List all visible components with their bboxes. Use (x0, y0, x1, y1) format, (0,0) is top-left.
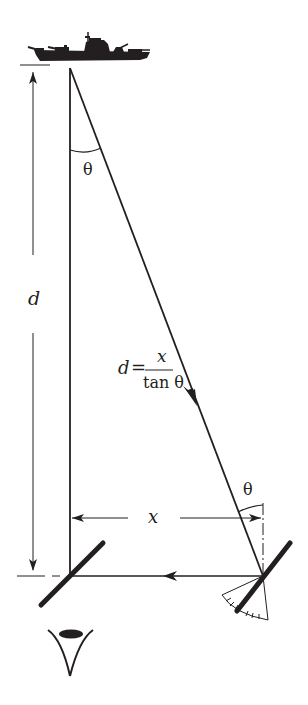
angle-label-top: θ (83, 160, 93, 179)
angle-arc-bottom (238, 505, 263, 512)
baseline-dimension (72, 514, 261, 522)
formula-numerator: x (157, 346, 167, 366)
distance-label: d (28, 287, 40, 309)
angle-label-bottom: θ (243, 480, 253, 499)
distance-dimension (29, 72, 37, 571)
sight-line (70, 68, 263, 576)
left-mirror (41, 543, 103, 605)
eye-icon (48, 630, 93, 677)
formula: d = x tan θ (118, 346, 184, 392)
formula-denominator: tan θ (143, 373, 184, 392)
formula-d: d (118, 357, 130, 378)
ship-icon (28, 32, 150, 61)
baseline-label: x (148, 506, 158, 527)
angle-arc-top (70, 148, 101, 152)
rangefinder-diagram: θ d d = x tan θ x θ (0, 0, 308, 705)
